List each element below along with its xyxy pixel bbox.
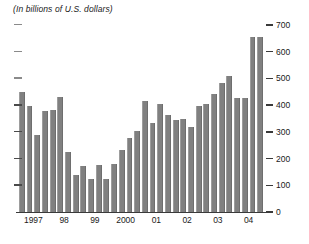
chart-figure: (In billions of U.S. dollars) 7006005004… <box>0 0 309 244</box>
bar <box>257 37 263 212</box>
bar <box>57 97 63 212</box>
left-axis-tick <box>14 131 22 132</box>
x-axis-label: 2000 <box>116 215 135 225</box>
tick-mark-icon <box>266 78 273 79</box>
x-axis-label: 1997 <box>24 215 43 225</box>
bar <box>111 164 117 212</box>
left-axis-tick <box>14 51 22 52</box>
right-axis-tick: 300 <box>266 127 290 137</box>
right-axis-tick-label: 700 <box>276 20 290 30</box>
right-axis: 7006005004003002001000 <box>266 0 309 244</box>
tick-mark-icon <box>266 24 273 25</box>
bar <box>165 115 171 213</box>
tick-mark-icon <box>266 131 273 132</box>
bar <box>234 98 240 212</box>
left-axis-tick <box>14 104 22 105</box>
x-axis-labels: 19979899200001020304 <box>18 215 264 229</box>
bar <box>150 123 156 212</box>
bar <box>188 127 194 212</box>
bar <box>203 104 209 212</box>
bar <box>250 37 256 212</box>
bar <box>73 175 79 212</box>
left-axis-tick <box>14 184 22 185</box>
right-axis-tick: 600 <box>266 47 290 57</box>
bar <box>219 83 225 212</box>
bar <box>157 104 163 212</box>
bar <box>27 106 33 212</box>
left-axis-tick <box>14 158 22 159</box>
bar <box>88 179 94 212</box>
bar <box>134 131 140 212</box>
right-axis-tick-label: 100 <box>276 180 290 190</box>
left-axis-tick <box>14 24 22 25</box>
bar <box>196 106 202 212</box>
bar <box>180 119 186 212</box>
bar <box>34 135 40 212</box>
bar <box>119 150 125 212</box>
tick-mark-icon <box>266 211 273 212</box>
right-axis-tick-label: 200 <box>276 154 290 164</box>
bar <box>142 101 148 212</box>
bar <box>50 110 56 212</box>
x-axis-label: 99 <box>90 215 99 225</box>
bar <box>19 92 25 212</box>
chart-title: (In billions of U.S. dollars) <box>13 4 113 14</box>
bar <box>127 138 133 212</box>
bar <box>80 166 86 212</box>
x-axis-label: 03 <box>213 215 222 225</box>
bar <box>173 120 179 212</box>
right-axis-tick: 700 <box>266 20 290 30</box>
x-axis-label: 04 <box>244 215 253 225</box>
bar <box>103 179 109 212</box>
right-axis-tick-label: 500 <box>276 73 290 83</box>
right-axis-tick: 500 <box>266 73 290 83</box>
tick-mark-icon <box>266 158 273 159</box>
bar <box>226 76 232 212</box>
bar <box>211 94 217 212</box>
bar <box>42 111 48 212</box>
right-axis-tick: 100 <box>266 180 290 190</box>
left-axis-tick <box>14 77 22 78</box>
bar <box>96 165 102 212</box>
bar <box>242 98 248 212</box>
right-axis-tick-label: 400 <box>276 100 290 110</box>
right-axis-tick-label: 0 <box>276 207 281 217</box>
right-axis-tick: 200 <box>266 154 290 164</box>
x-axis-label: 02 <box>182 215 191 225</box>
plot-area <box>18 25 264 212</box>
right-axis-tick: 0 <box>266 207 281 217</box>
bar <box>65 152 71 212</box>
tick-mark-icon <box>266 104 273 105</box>
right-axis-tick-label: 600 <box>276 47 290 57</box>
tick-mark-icon <box>266 51 273 52</box>
bar-series <box>18 25 264 212</box>
tick-mark-icon <box>266 185 273 186</box>
right-axis-tick-label: 300 <box>276 127 290 137</box>
x-axis-label: 98 <box>59 215 68 225</box>
x-axis-label: 01 <box>152 215 161 225</box>
x-axis-baseline <box>16 212 266 213</box>
right-axis-tick: 400 <box>266 100 290 110</box>
